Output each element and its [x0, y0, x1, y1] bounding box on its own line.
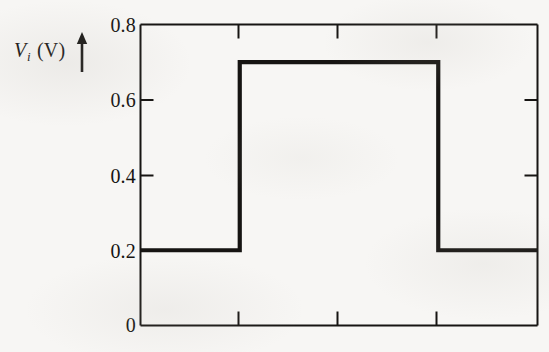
x-axis-ticks-top: [239, 25, 437, 39]
waveform-trace: [141, 62, 538, 250]
y-axis-ticks-right: [525, 100, 538, 251]
figure-canvas: Vi (V) 0.8 0.6 0.4 0.2 0: [0, 0, 549, 352]
plot-frame: [141, 25, 538, 326]
y-axis-ticks-left: [141, 100, 154, 251]
x-axis-ticks-bottom: [239, 312, 437, 326]
plot-area: [0, 0, 549, 352]
